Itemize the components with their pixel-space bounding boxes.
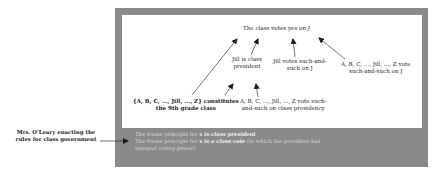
frame-principle-vote-prefix: The frame principle for [135,138,199,144]
anchoring-label-line1: Mrs. O'Leary enacting the [17,129,96,135]
frame-principles-text: The frame principle for x is class presi… [135,131,415,153]
node-class-constitutes-line1: {A, B, C, ..., Jill, ..., Z} constitutes [133,98,239,104]
frame-principle-president: The frame principle for x is class presi… [135,131,415,138]
node-jill-votes: Jill votes such-and- such on J [273,58,327,73]
frame-principle-vote-continued: unequal voting power) [135,145,415,152]
anchoring-label-line2: rules for class government [16,136,97,142]
frame-principle-vote: The frame principle for x is a class vot… [135,138,415,145]
node-all-vote-on-j-line1: A, B, C, ..., Jill, ..., Z vote [341,61,411,67]
frame-principle-vote-suffix: (in which the president has [245,138,320,144]
node-class-votes-yes-j: J [308,25,310,31]
node-presidency-vote-line1: A, B, C, ..., Jill, ..., Z vote such- [240,98,326,104]
node-jill-votes-line2: such on J [287,65,313,71]
node-jill-is-president-line1: Jill is class [232,56,262,62]
node-class-constitutes: {A, B, C, ..., Jill, ..., Z} constitutes… [133,98,239,113]
node-presidency-vote-line2: and-such on class presidency [242,105,325,111]
node-all-vote-on-j: A, B, C, ..., Jill, ..., Z vote such-and… [341,61,411,76]
frame-principle-vote-emph: x is a class vote [199,138,245,144]
node-all-vote-on-j-line2: such-and-such on J [349,68,403,74]
node-jill-is-president-line2: president [233,63,260,69]
node-jill-is-president: Jill is class president [232,56,262,71]
node-class-constitutes-line2: the 9th grade class [156,105,216,111]
frame-principle-president-prefix: The frame principle for [135,131,199,137]
node-class-votes-yes-text: The class votes yes on [243,25,308,31]
node-jill-votes-line1: Jill votes such-and- [273,58,327,64]
node-class-votes-yes: The class votes yes on J [243,25,310,32]
node-presidency-vote: A, B, C, ..., Jill, ..., Z vote such- an… [240,98,326,113]
anchoring-label: Mrs. O'Leary enacting the rules for clas… [11,129,101,144]
frame-principle-president-emph: x is class president [199,131,256,137]
